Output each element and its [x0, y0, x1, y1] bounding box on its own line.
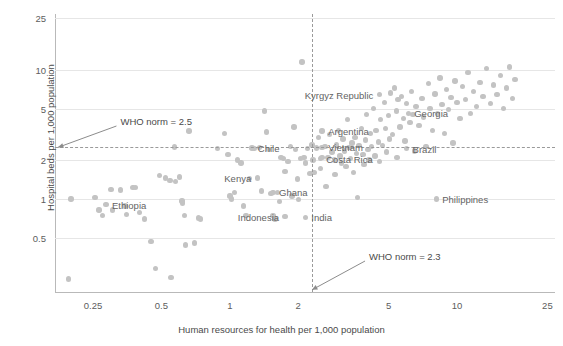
country-label: Costa Rica [326, 153, 372, 164]
data-point [103, 202, 108, 207]
data-point [319, 128, 324, 133]
data-point [409, 89, 414, 94]
data-point [416, 123, 421, 128]
data-point [397, 124, 402, 129]
data-point [238, 160, 243, 165]
data-point [504, 85, 509, 90]
x-tick-label: 5 [386, 300, 391, 311]
data-point [430, 128, 435, 133]
data-point [153, 266, 158, 271]
country-label: Kyrgyz Republic [0, 89, 373, 100]
data-point [387, 136, 392, 141]
data-point [183, 242, 188, 247]
data-point [512, 77, 517, 82]
x-tick-label: 25 [542, 300, 553, 311]
data-point [262, 108, 267, 113]
data-point [491, 82, 496, 87]
data-point [303, 160, 308, 165]
data-point [402, 138, 407, 143]
data-point [363, 137, 368, 142]
data-point [255, 175, 260, 180]
data-point [332, 172, 337, 177]
data-point [148, 239, 153, 244]
data-point [442, 131, 447, 136]
data-point [225, 152, 230, 157]
data-point [303, 215, 308, 220]
country-label: Georgia [414, 108, 448, 119]
x-tick-label: 0.5 [155, 300, 168, 311]
data-point [404, 101, 409, 106]
data-point [133, 185, 138, 190]
annotation-arrow [50, 118, 124, 155]
data-point [378, 117, 383, 122]
y-tick-label: 0.5 [0, 232, 46, 243]
data-point [480, 94, 485, 99]
data-point [282, 214, 287, 219]
data-point [477, 80, 482, 85]
data-point [180, 200, 185, 205]
country-label: Indonesia [0, 211, 279, 222]
data-point [232, 190, 237, 195]
data-point [264, 129, 269, 134]
country-label: India [311, 212, 332, 223]
data-point [392, 85, 397, 90]
data-point [372, 153, 377, 158]
country-label: Kenya [0, 173, 251, 184]
data-point [383, 126, 388, 131]
data-point [345, 117, 350, 122]
x-axis-title: Human resources for health per 1,000 pop… [0, 324, 563, 335]
data-point [277, 199, 282, 204]
data-point [507, 64, 512, 69]
plot-area [55, 14, 555, 292]
data-point [471, 89, 476, 94]
data-point [390, 132, 395, 137]
data-point [426, 81, 431, 86]
data-point [454, 100, 459, 105]
data-point [222, 131, 227, 136]
data-point [468, 111, 473, 116]
y-tick-label: 25 [0, 13, 46, 24]
gridline-y [55, 109, 555, 110]
data-point [351, 170, 356, 175]
reference-line-horizontal [55, 147, 555, 148]
data-point [299, 59, 304, 64]
y-tick-label: 10 [0, 64, 46, 75]
x-tick-label: 10 [452, 300, 463, 311]
data-point [384, 149, 389, 154]
data-point [439, 102, 444, 107]
data-point [465, 70, 470, 75]
data-point [343, 164, 348, 169]
country-label: Brazil [413, 143, 437, 154]
country-label: Chile [258, 142, 280, 153]
y-axis-title: Hospital beds per 1,000 population [45, 48, 56, 228]
data-point [419, 96, 424, 101]
data-point [444, 87, 449, 92]
data-point [448, 95, 453, 100]
data-point [68, 196, 73, 201]
data-point [452, 78, 457, 83]
x-tick-label: 0.25 [84, 300, 103, 311]
country-label: Ghana [279, 187, 308, 198]
data-point [377, 159, 382, 164]
data-point [282, 169, 287, 174]
country-label: Philippines [442, 193, 488, 204]
data-point [241, 203, 246, 208]
reference-line-annotation: WHO norm = 2.5 [120, 116, 192, 127]
data-point [386, 113, 391, 118]
data-point [394, 155, 399, 160]
data-point [494, 92, 499, 97]
data-point [501, 106, 506, 111]
data-point [432, 91, 437, 96]
data-point [437, 75, 442, 80]
data-point [295, 176, 300, 181]
data-point [388, 90, 393, 95]
data-point [323, 184, 328, 189]
reference-line-annotation: WHO norm = 2.3 [369, 251, 441, 262]
country-label: Ethiopia [112, 199, 146, 210]
data-point [270, 190, 275, 195]
data-point [192, 240, 197, 245]
reference-line-vertical [312, 14, 313, 292]
data-point [259, 188, 264, 193]
data-point [291, 124, 296, 129]
data-point [318, 166, 323, 171]
